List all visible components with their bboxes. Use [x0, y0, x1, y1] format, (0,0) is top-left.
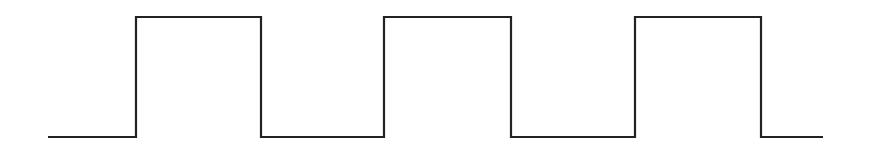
square-wave-line: [48, 17, 823, 137]
square-wave-diagram: [0, 0, 869, 155]
square-wave-plot: [0, 0, 869, 155]
